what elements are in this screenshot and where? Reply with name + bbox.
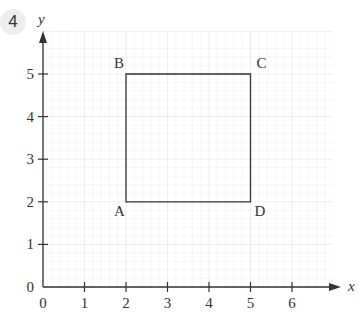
coordinate-grid: 0123456012345xyABCD — [0, 0, 363, 322]
x-tick-label: 1 — [81, 295, 89, 311]
y-tick-label: 0 — [27, 279, 35, 295]
point-label-b: B — [114, 55, 124, 71]
y-tick-label: 4 — [27, 109, 35, 125]
x-axis-label: x — [347, 278, 355, 294]
x-tick-label: 3 — [164, 295, 172, 311]
x-tick-label: 5 — [247, 295, 255, 311]
x-tick-label: 0 — [39, 295, 47, 311]
x-tick-label: 6 — [288, 295, 296, 311]
y-tick-label: 5 — [27, 66, 35, 82]
x-tick-label: 2 — [122, 295, 130, 311]
point-label-c: C — [257, 55, 267, 71]
y-tick-label: 1 — [27, 236, 35, 252]
point-label-a: A — [114, 203, 125, 219]
point-label-d: D — [255, 203, 266, 219]
square-abcd — [126, 74, 251, 202]
labels: 0123456012345xyABCD — [27, 11, 356, 311]
y-tick-label: 3 — [27, 151, 35, 167]
y-tick-label: 2 — [27, 194, 35, 210]
grid-lines — [43, 30, 333, 287]
x-tick-label: 4 — [205, 295, 213, 311]
y-axis-label: y — [36, 11, 45, 27]
